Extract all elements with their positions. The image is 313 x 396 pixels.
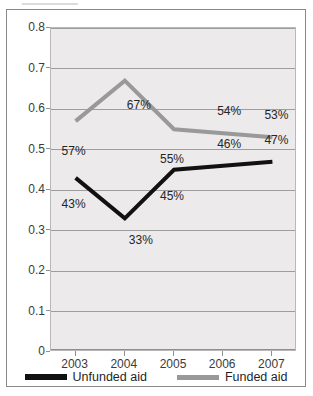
legend-label: Unfunded aid xyxy=(73,370,147,384)
data-point-label: 45% xyxy=(160,189,184,203)
chart-figure: Contribution to total financial aid (%) … xyxy=(0,0,313,396)
y-axis-tick-label: 0.7 xyxy=(1,61,45,75)
legend-label: Funded aid xyxy=(225,370,288,384)
data-point-label: 43% xyxy=(62,197,86,211)
data-point-label: 46% xyxy=(217,137,241,151)
y-axis-tick-label: 0.1 xyxy=(1,304,45,318)
y-axis-tick-label: 0.4 xyxy=(1,182,45,196)
data-point-label: 53% xyxy=(264,108,288,122)
legend-swatch xyxy=(25,374,67,380)
series-line xyxy=(76,81,273,138)
y-axis-tick-label: 0 xyxy=(1,344,45,358)
data-point-label: 57% xyxy=(62,144,86,158)
legend-swatch xyxy=(177,375,219,380)
x-axis-tick-mark xyxy=(124,351,125,356)
x-axis-tick-mark xyxy=(222,351,223,356)
data-point-label: 67% xyxy=(127,98,151,112)
y-axis-tick-label: 0.8 xyxy=(1,20,45,34)
x-axis-tick-mark xyxy=(75,351,76,356)
x-axis-tick-mark xyxy=(173,351,174,356)
y-axis-tick-label: 0.5 xyxy=(1,142,45,156)
chart-legend: Unfunded aidFunded aid xyxy=(7,362,305,392)
legend-item[interactable]: Funded aid xyxy=(177,370,288,384)
y-axis-tick-label: 0.6 xyxy=(1,101,45,115)
data-point-label: 55% xyxy=(160,152,184,166)
data-point-label: 47% xyxy=(264,133,288,147)
plot-area: 43%33%45%46%47%57%67%55%54%53% xyxy=(50,27,296,351)
data-point-label: 33% xyxy=(129,233,153,247)
y-axis-tick-label: 0.3 xyxy=(1,223,45,237)
x-axis-tick-mark xyxy=(271,351,272,356)
y-axis-tick-label: 0.2 xyxy=(1,263,45,277)
scan-artifact xyxy=(22,3,78,5)
legend-item[interactable]: Unfunded aid xyxy=(25,370,147,384)
data-point-label: 54% xyxy=(217,104,241,118)
